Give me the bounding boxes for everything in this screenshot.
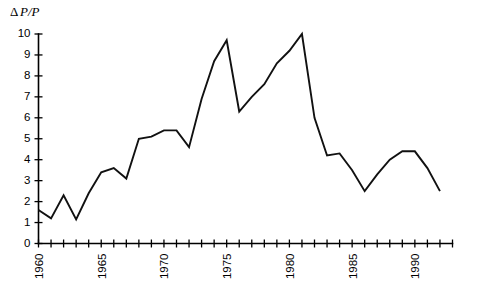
x-axis: 1960196519701975198019851990 bbox=[33, 240, 453, 280]
line-chart: Δ P/P 012345678910 196019651970197519801… bbox=[0, 0, 480, 295]
x-axis-tick-label: 1970 bbox=[158, 254, 170, 280]
y-axis-tick-label: 8 bbox=[24, 69, 30, 81]
y-axis-tick-label: 2 bbox=[24, 195, 30, 207]
y-axis-tick-label: 4 bbox=[24, 153, 31, 165]
y-axis-tick-label: 6 bbox=[24, 111, 30, 123]
y-axis-title-delta: Δ bbox=[10, 4, 18, 19]
x-axis-tick-label: 1965 bbox=[96, 254, 108, 280]
y-axis-title-text: P/P bbox=[19, 4, 40, 19]
x-axis-tick-label: 1960 bbox=[33, 254, 45, 280]
y-axis-tick-label: 1 bbox=[24, 216, 30, 228]
y-axis-tick-label: 10 bbox=[18, 27, 31, 39]
y-axis-tick-label: 5 bbox=[24, 132, 30, 144]
y-axis-tick-label: 7 bbox=[24, 90, 30, 102]
data-series-line bbox=[39, 34, 440, 219]
y-axis-title: Δ P/P bbox=[10, 4, 40, 19]
chart-container: Δ P/P 012345678910 196019651970197519801… bbox=[0, 0, 480, 295]
y-axis-tick-label: 3 bbox=[24, 174, 30, 186]
y-axis: 012345678910 bbox=[18, 27, 43, 249]
x-axis-tick-label: 1975 bbox=[221, 254, 233, 280]
x-axis-tick-label: 1985 bbox=[347, 254, 359, 280]
data-series-group bbox=[39, 34, 440, 219]
y-axis-tick-label: 9 bbox=[24, 48, 30, 60]
y-axis-tick-label: 0 bbox=[24, 237, 30, 249]
x-axis-tick-label: 1980 bbox=[284, 254, 296, 280]
x-axis-tick-label: 1990 bbox=[409, 254, 421, 280]
